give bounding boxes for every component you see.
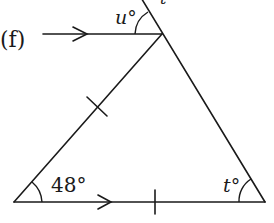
angle-arc-u	[135, 12, 148, 34]
angle-label-t: t°	[223, 174, 240, 196]
triangle-right-side	[140, 0, 265, 202]
angle-arc-48	[32, 182, 42, 202]
geometry-diagram: (f) u° 48° t° t	[0, 0, 274, 223]
triangle-left-side	[14, 34, 162, 202]
part-label: (f)	[0, 27, 25, 52]
cut-off-top-label: t	[160, 0, 167, 8]
angle-label-u: u°	[115, 6, 137, 28]
angle-arc-t	[239, 179, 251, 202]
angle-label-48: 48°	[51, 173, 86, 197]
